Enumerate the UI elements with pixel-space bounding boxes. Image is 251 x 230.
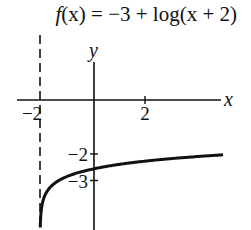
ticks: −22−2−3 bbox=[22, 96, 150, 192]
y-tick-label: −2 bbox=[68, 144, 88, 165]
axes bbox=[17, 62, 221, 230]
plot-area: −22−2−3 x y bbox=[0, 0, 251, 230]
x-tick-label: 2 bbox=[140, 103, 150, 124]
x-axis-label: x bbox=[223, 88, 233, 110]
y-axis-label: y bbox=[87, 39, 98, 62]
x-tick-label: −2 bbox=[22, 103, 42, 124]
